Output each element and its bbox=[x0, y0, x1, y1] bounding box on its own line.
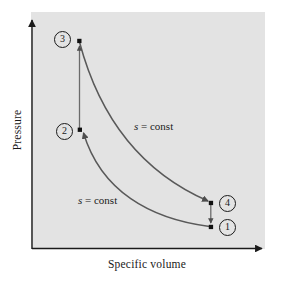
entropy-equals-upper: = const bbox=[138, 120, 173, 132]
process-curve-1-2 bbox=[84, 133, 210, 227]
state-point-2 bbox=[78, 128, 82, 132]
state-point-4 bbox=[209, 201, 213, 205]
state-badge-4: 4 bbox=[219, 195, 236, 212]
state-point-1 bbox=[209, 225, 213, 229]
y-axis-label: Pressure bbox=[11, 100, 23, 160]
state-point-3 bbox=[77, 39, 81, 43]
isentropic-label-upper: s = const bbox=[134, 120, 173, 132]
diagram-vector-layer bbox=[0, 0, 283, 284]
state-badge-3: 3 bbox=[54, 31, 71, 48]
state-badge-2: 2 bbox=[56, 123, 73, 140]
entropy-equals-lower: = const bbox=[82, 194, 117, 206]
isentropic-label-lower: s = const bbox=[78, 194, 117, 206]
pv-diagram-figure: 3 2 4 1 s = const s = const Specific vol… bbox=[0, 0, 283, 284]
x-axis-label: Specific volume bbox=[108, 258, 186, 270]
state-badge-1: 1 bbox=[219, 219, 236, 236]
